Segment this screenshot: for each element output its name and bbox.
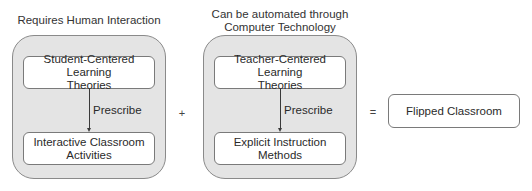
interactive-classroom-activities-node: Interactive Classroom Activities (23, 132, 155, 165)
equals-operator: = (367, 106, 379, 118)
right-prescribe-label: Prescribe (284, 104, 333, 117)
flipped-classroom-node: Flipped Classroom (388, 94, 520, 128)
left-group-caption: Requires Human Interaction (12, 14, 166, 27)
left-prescribe-connector (89, 89, 90, 129)
node-label-line1: Explicit Instruction (234, 136, 327, 149)
node-label-line2: Methods (258, 149, 302, 162)
left-prescribe-label: Prescribe (93, 104, 142, 117)
node-label-line1: Student-Centered Learning (28, 53, 150, 79)
plus-operator: + (176, 107, 188, 119)
node-label-line2: Activities (66, 149, 111, 162)
right-prescribe-connector (280, 89, 281, 129)
explicit-instruction-methods-node: Explicit Instruction Methods (214, 132, 346, 165)
right-caption-line1: Can be automated through (203, 8, 357, 21)
node-label-line1: Interactive Classroom (33, 136, 144, 149)
result-label: Flipped Classroom (406, 105, 502, 118)
node-label-line1: Teacher-Centered Learning (219, 53, 341, 79)
right-caption-line2: Computer Technology (203, 21, 357, 34)
right-group-caption: Can be automated through Computer Techno… (203, 8, 357, 34)
teacher-centered-theories-node: Teacher-Centered Learning Theories (214, 56, 346, 89)
student-centered-theories-node: Student-Centered Learning Theories (23, 56, 155, 89)
